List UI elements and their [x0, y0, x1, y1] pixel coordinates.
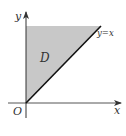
origin-label: O: [13, 105, 22, 118]
region-diagram: y x O D y=x: [0, 0, 126, 136]
y-axis-label: y: [14, 10, 22, 23]
x-axis-label: x: [114, 104, 121, 117]
region-label: D: [39, 51, 50, 65]
line-label: y=x: [96, 28, 114, 38]
